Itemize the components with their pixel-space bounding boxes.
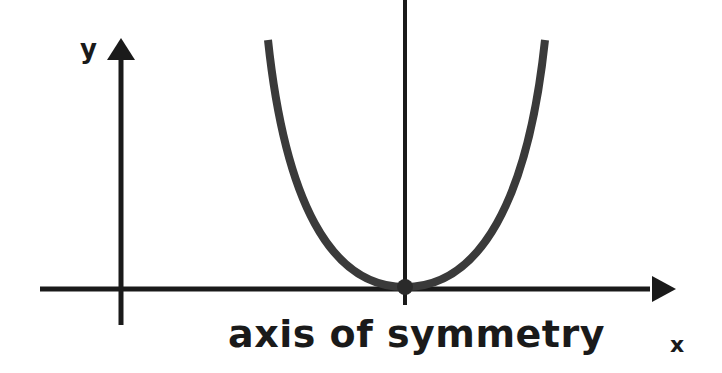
vertex-dot <box>397 279 413 295</box>
y-axis-label: y <box>80 34 97 64</box>
x-axis-label: x <box>670 332 684 357</box>
x-axis-arrow-icon <box>652 276 676 302</box>
axis-of-symmetry-caption: axis of symmetry <box>228 312 605 356</box>
y-axis-arrow-icon <box>107 38 135 60</box>
